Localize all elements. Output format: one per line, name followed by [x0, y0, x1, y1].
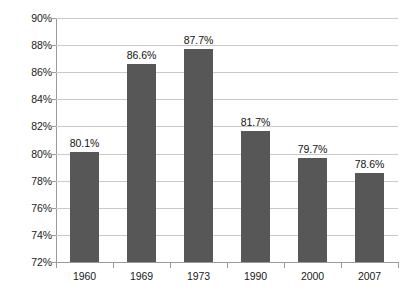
bar [184, 49, 213, 262]
x-axis-category-label: 2000 [301, 270, 324, 282]
bar [298, 158, 327, 262]
plot-area: 80.1%86.6%87.7%81.7%79.7%78.6% [56, 18, 398, 262]
y-axis-tick-label: 80% [31, 148, 52, 160]
gridline [56, 45, 398, 46]
bar-data-label: 80.1% [70, 137, 99, 149]
x-axis-category-label: 1960 [73, 270, 96, 282]
x-axis-tick-mark [113, 262, 114, 268]
y-axis-tick-label: 90% [31, 12, 52, 24]
x-axis-tick-mark [284, 262, 285, 268]
x-axis-tick-mark [227, 262, 228, 268]
y-axis-tick-label: 88% [31, 39, 52, 51]
gridline [56, 154, 398, 155]
y-axis-tick-mark [51, 208, 56, 209]
y-axis-tick-mark [51, 99, 56, 100]
gridline [56, 126, 398, 127]
y-axis-tick-label: 86% [31, 66, 52, 78]
y-axis-tick-label: 82% [31, 120, 52, 132]
y-axis-tick-mark [51, 126, 56, 127]
y-axis-tick-label: 84% [31, 93, 52, 105]
x-axis-tick-mark [341, 262, 342, 268]
gridline [56, 72, 398, 73]
bar [355, 173, 384, 262]
gridline [56, 235, 398, 236]
gridline [56, 18, 398, 19]
x-axis-tick-mark [56, 262, 57, 268]
gridline [56, 208, 398, 209]
gridline [56, 99, 398, 100]
y-axis-tick-labels: 90%88%86%84%82%80%78%76%74%72% [0, 0, 52, 298]
bar-data-label: 86.6% [127, 49, 156, 61]
y-axis-tick-mark [51, 45, 56, 46]
bar-data-label: 87.7% [184, 34, 213, 46]
bar [241, 131, 270, 262]
bar-data-label: 79.7% [298, 143, 327, 155]
bar-chart: 90%88%86%84%82%80%78%76%74%72% 80.1%86.6… [0, 0, 412, 298]
x-axis-category-label: 2007 [358, 270, 381, 282]
y-axis-tick-label: 76% [31, 202, 52, 214]
bar [127, 64, 156, 262]
y-axis-tick-mark [51, 18, 56, 19]
x-axis-tick-mark [398, 262, 399, 268]
y-axis-tick-label: 72% [31, 256, 52, 268]
x-axis-tick-mark [170, 262, 171, 268]
y-axis-tick-label: 78% [31, 175, 52, 187]
bar-data-label: 81.7% [241, 116, 270, 128]
gridline [56, 181, 398, 182]
x-axis-category-label: 1973 [187, 270, 210, 282]
y-axis-tick-mark [51, 72, 56, 73]
y-axis-tick-mark [51, 154, 56, 155]
x-axis-category-label: 1969 [130, 270, 153, 282]
bar [70, 152, 99, 262]
y-axis-tick-mark [51, 235, 56, 236]
x-axis-category-label: 1990 [244, 270, 267, 282]
bar-data-label: 78.6% [355, 158, 384, 170]
y-axis-tick-label: 74% [31, 229, 52, 241]
y-axis-tick-mark [51, 181, 56, 182]
